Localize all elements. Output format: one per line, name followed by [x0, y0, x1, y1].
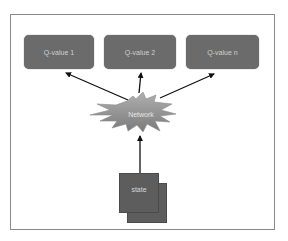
state-label: state	[119, 186, 159, 193]
arrow-to-qn	[160, 74, 214, 98]
arrow-to-q1	[66, 73, 128, 100]
network-label: Network	[118, 111, 164, 118]
arrow-to-q2	[139, 73, 141, 93]
state-card	[119, 173, 159, 213]
